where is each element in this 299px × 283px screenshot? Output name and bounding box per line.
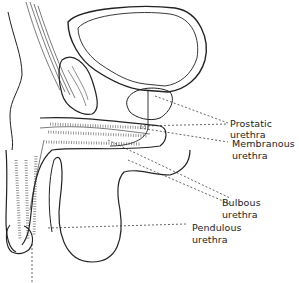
leader-prostatic-a [155,96,228,123]
body-outline [8,12,22,150]
penile-shaft-lower [6,150,16,252]
label-bulbous-line1: Bulbous [222,197,261,208]
pelvic-fibers [26,2,75,98]
bladder-inner [78,13,198,86]
leader-bulbous-b [108,140,230,198]
label-membranous-line1: Membranous [232,138,295,149]
leader-membranous [140,128,228,142]
label-pendulous-line2: urethra [192,234,228,245]
label-bulbous-line2: urethra [222,209,258,220]
pubic-bone [59,57,97,114]
scrotum [54,150,190,262]
leader-bulbous-a [128,160,230,204]
glans [6,225,32,254]
urethra-diagram: Prostatic urethra Membranous urethra Bul… [0,0,299,283]
prostate [127,88,173,120]
label-pendulous-line1: Pendulous [192,222,242,233]
label-membranous-line2: urethra [232,150,268,161]
penile-shaft-inner [30,127,150,210]
bladder [68,7,206,92]
leader-pendulous [48,224,186,228]
penile-shaft-outer [22,118,166,245]
label-prostatic-urethra: Prostatic urethra [230,118,299,140]
